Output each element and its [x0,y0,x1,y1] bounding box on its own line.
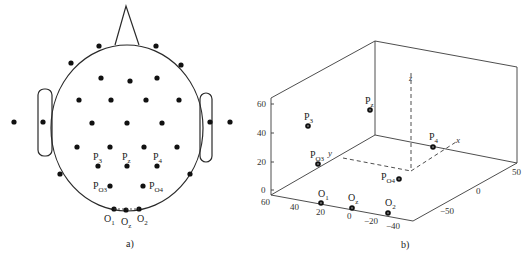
label-oz: Oz [121,216,131,230]
y-axis-label: y [327,148,332,158]
point-label-oz: Oz [348,192,358,206]
head-outline [51,45,203,211]
nose-icon [115,6,139,45]
panel-a-head-map: P3 Pz P4 PO3 PO4 O1 Oz O2 a) [11,6,232,250]
caption-a: a) [126,238,134,250]
label-p3: P3 [93,151,103,165]
label-o1: O1 [104,213,115,227]
label-pz: Pz [122,151,131,165]
svg-text:20: 20 [316,207,326,217]
point-label-po4: PO4 [381,171,396,185]
svg-text:40: 40 [257,128,267,138]
svg-text:−20: −20 [364,216,379,226]
svg-text:40: 40 [290,202,300,212]
svg-text:60: 60 [261,197,271,207]
label-o2: O2 [137,213,148,227]
x-axis-label: x [455,135,460,145]
svg-text:60: 60 [257,99,267,109]
caption-b: b) [401,239,409,251]
point-label-pz: Pz [365,95,374,109]
y-ticks: 60 40 20 0 −20 −40 [261,197,401,231]
svg-text:0: 0 [261,185,266,195]
right-ear [200,93,212,162]
point-label-po3: PO3 [310,149,325,163]
electrode-oz [123,207,128,212]
electrode-po3 [107,183,112,188]
z-axis-label: z [408,74,413,83]
panel-b-3d-plot: z y x 60 40 20 0 60 40 20 0 −20 −40 50 0… [257,41,522,251]
label-po4: PO4 [149,180,164,194]
box-left-wall [271,41,375,195]
label-po3: PO3 [93,180,108,194]
box-back-wall [375,41,517,163]
point-label-p3: P3 [304,111,314,125]
electrode-po4 [140,183,145,188]
point-label-o1: O1 [318,188,329,202]
point-label-p4: P4 [429,131,439,145]
y-axis [343,158,411,171]
point-label-o2: O2 [385,197,396,211]
x-ticks: 50 0 −50 [440,167,522,216]
svg-text:−40: −40 [386,221,401,231]
svg-text:50: 50 [512,167,522,177]
svg-text:20: 20 [257,157,267,167]
svg-text:0: 0 [347,211,352,221]
label-p4: P4 [153,151,163,165]
svg-text:−50: −50 [440,206,455,216]
figure: P3 Pz P4 PO3 PO4 O1 Oz O2 a) z y x 60 [0,0,530,258]
svg-text:0: 0 [476,186,481,196]
